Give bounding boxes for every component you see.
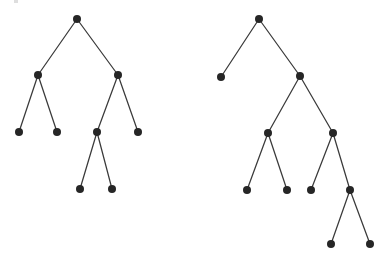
tree-edge — [333, 133, 350, 190]
tree-node — [73, 15, 81, 23]
tree-diagram-figure — [0, 0, 389, 260]
tree-edge — [80, 132, 97, 189]
left-tree-edges — [19, 19, 138, 189]
tree-edge — [118, 75, 138, 132]
tree-edge — [268, 76, 300, 133]
tree-edge — [247, 133, 268, 190]
tree-edge — [38, 19, 77, 75]
tree-node — [53, 128, 61, 136]
tree-node — [108, 185, 116, 193]
tree-node — [327, 240, 335, 248]
tree-node — [283, 186, 291, 194]
right-tree-nodes — [217, 15, 374, 248]
tree-edge — [97, 132, 112, 189]
tree-node — [34, 71, 42, 79]
tree-edge — [77, 19, 118, 75]
tree-edge — [221, 19, 259, 77]
tree-node — [307, 186, 315, 194]
tree-node — [255, 15, 263, 23]
tree-edge — [19, 75, 38, 132]
tree-node — [134, 128, 142, 136]
tree-node — [366, 240, 374, 248]
node-layer — [15, 15, 374, 248]
tree-edge — [350, 190, 370, 244]
tree-node — [329, 129, 337, 137]
tree-edge — [38, 75, 57, 132]
tree-node — [264, 129, 272, 137]
tree-edge — [300, 76, 333, 133]
tree-node — [243, 186, 251, 194]
tree-edge — [259, 19, 300, 76]
edge-layer — [19, 19, 370, 244]
tree-edge — [331, 190, 350, 244]
tree-edge — [311, 133, 333, 190]
tree-node — [15, 128, 23, 136]
tree-edge — [97, 75, 118, 132]
tree-node — [93, 128, 101, 136]
right-tree-edges — [221, 19, 370, 244]
tree-node — [114, 71, 122, 79]
tree-node — [296, 72, 304, 80]
tree-node — [346, 186, 354, 194]
tree-node — [76, 185, 84, 193]
tree-node — [217, 73, 225, 81]
tree-edge — [268, 133, 287, 190]
tree-canvas — [0, 0, 389, 260]
left-tree-nodes — [15, 15, 142, 193]
